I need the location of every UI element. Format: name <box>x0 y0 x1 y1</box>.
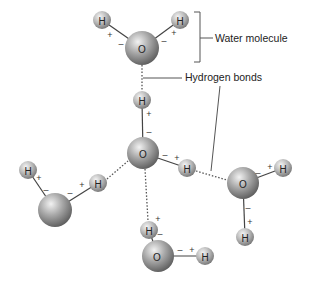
negative-charge: – <box>245 203 250 213</box>
negative-charge: – <box>67 188 72 198</box>
negative-charge: – <box>43 185 48 195</box>
hydrogen-symbol: H <box>176 16 183 27</box>
water-molecule-left: H H + – – + <box>19 161 107 227</box>
water-molecule-center: O H H + – – + <box>127 91 196 177</box>
negative-charge: – <box>157 229 162 239</box>
hydrogen-symbol: H <box>145 226 152 237</box>
hydrogen-symbol: H <box>279 164 286 175</box>
hydrogen-symbol: H <box>24 166 31 177</box>
hydrogen-symbol: H <box>94 179 101 190</box>
positive-charge: + <box>155 214 160 224</box>
oxygen-atom <box>38 193 72 227</box>
hydrogen-bonds-dotted <box>107 65 227 221</box>
negative-charge: – <box>177 245 182 255</box>
positive-charge: + <box>267 162 272 172</box>
positive-charge: + <box>171 28 176 38</box>
positive-charge: + <box>36 173 41 183</box>
positive-charge: + <box>79 180 84 190</box>
negative-charge: – <box>255 168 260 178</box>
negative-charge: – <box>162 150 167 160</box>
oxygen-symbol: O <box>153 252 161 263</box>
water-molecule-label: Water molecule <box>215 32 288 44</box>
hydrogen-symbol: H <box>138 96 145 107</box>
hydrogen-symbol: H <box>241 233 248 244</box>
water-hydrogen-bond-diagram: Water molecule Hydrogen bonds O H H + – … <box>0 0 309 286</box>
hydrogen-bonds-label: Hydrogen bonds <box>185 71 262 83</box>
water-molecule-top: O H H + – – + <box>93 11 189 65</box>
hydrogen-symbol: H <box>98 16 105 27</box>
oxygen-symbol: O <box>138 44 146 55</box>
hydrogen-symbol: H <box>183 164 190 175</box>
positive-charge: + <box>174 153 179 163</box>
negative-charge: – <box>118 39 123 49</box>
positive-charge: + <box>146 109 151 119</box>
water-molecule-bottom: O H H + – – + <box>140 214 214 272</box>
oxygen-symbol: O <box>139 149 147 160</box>
negative-charge: – <box>146 127 151 137</box>
hydrogen-symbol: H <box>201 252 208 263</box>
positive-charge: + <box>247 217 252 227</box>
water-molecule-right: O H H – + – + <box>227 159 292 246</box>
negative-charge: – <box>161 36 166 46</box>
oxygen-symbol: O <box>239 179 247 190</box>
positive-charge: + <box>189 245 194 255</box>
positive-charge: + <box>107 30 112 40</box>
